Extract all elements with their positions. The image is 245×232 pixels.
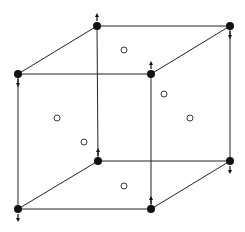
- spin-arrow-down-icon: [16, 79, 20, 87]
- cube-edges: [18, 26, 230, 209]
- face-site-left-face: [54, 115, 60, 121]
- spin-arrow-up-icon: [149, 61, 153, 69]
- corner-atom-top-front-left: [14, 70, 22, 78]
- cube-edge: [18, 161, 98, 209]
- corner-atom-bottom-back-right: [226, 157, 234, 165]
- corner-atom-bottom-front-right: [147, 205, 155, 213]
- face-site-front-face: [81, 139, 87, 145]
- face-site-bottom-face: [121, 183, 127, 189]
- corner-atom-bottom-front-left: [14, 205, 22, 213]
- spin-arrow-up-icon: [95, 13, 99, 21]
- cube-edge: [151, 161, 230, 209]
- face-center-sites: [54, 47, 193, 189]
- spin-arrow-up-icon: [96, 148, 100, 156]
- cube-edge: [151, 26, 230, 74]
- spin-arrow-down-icon: [228, 166, 232, 174]
- corner-atom-top-back-right: [226, 22, 234, 30]
- corner-atom-bottom-back-left: [94, 157, 102, 165]
- corner-atom-top-back-left: [93, 22, 101, 30]
- spin-arrow-up-icon: [149, 196, 153, 204]
- cube-edge: [97, 26, 98, 161]
- face-site-top-face: [121, 47, 127, 53]
- cube-edge: [18, 26, 97, 74]
- cube-lattice-diagram: [0, 0, 245, 232]
- spin-arrow-down-icon: [228, 31, 232, 39]
- face-site-back-face: [161, 91, 167, 97]
- corner-atom-top-front-right: [147, 70, 155, 78]
- face-site-right-face: [187, 115, 193, 121]
- spin-arrow-down-icon: [16, 214, 20, 222]
